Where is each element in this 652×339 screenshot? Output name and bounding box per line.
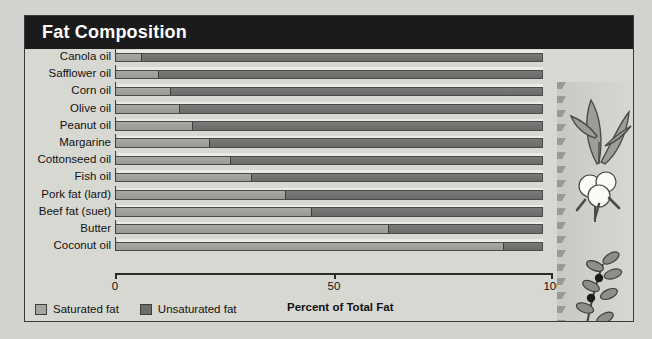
x-axis-tick-label: 100 xyxy=(543,280,562,292)
bar-segment-unsaturated xyxy=(231,157,542,165)
category-label: Pork fat (lard) xyxy=(25,187,111,202)
bar-left-cap xyxy=(115,220,120,234)
category-label: Cottonseed oil xyxy=(25,152,111,167)
bar-left-cap xyxy=(115,186,120,200)
x-axis-tick-label: 0 xyxy=(112,280,118,292)
legend-swatch-saturated xyxy=(35,304,47,315)
page-title: Fat Composition xyxy=(42,22,187,43)
bar-segment-unsaturated xyxy=(286,191,542,199)
bar-body xyxy=(115,242,543,252)
chart-row: Margarine xyxy=(25,135,634,152)
bar-segment-saturated xyxy=(116,157,231,165)
stacked-bar xyxy=(115,102,543,114)
x-axis-tick xyxy=(115,273,117,279)
category-label: Olive oil xyxy=(25,101,111,116)
category-label: Canola oil xyxy=(25,49,111,64)
bar-segment-saturated xyxy=(116,225,389,233)
chart-row: Fish oil xyxy=(25,169,634,186)
bar-segment-saturated xyxy=(116,243,504,251)
x-axis-tick-label: 50 xyxy=(328,280,341,292)
panel-title-bar: Fat Composition xyxy=(25,16,634,49)
bar-segment-saturated xyxy=(116,191,286,199)
stacked-bar xyxy=(115,50,543,62)
chart-row: Olive oil xyxy=(25,101,634,118)
stacked-bar xyxy=(115,153,543,165)
bar-segment-unsaturated xyxy=(142,54,542,62)
bar-left-cap xyxy=(115,168,120,182)
bar-segment-saturated xyxy=(116,71,159,79)
stacked-bar xyxy=(115,222,543,234)
bar-segment-unsaturated xyxy=(193,122,542,130)
screenshot-root: Fat Composition Canola oilSafflower oilC… xyxy=(0,0,652,339)
bar-segment-unsaturated xyxy=(312,208,542,216)
bar-segment-unsaturated xyxy=(389,225,542,233)
x-axis: 050100 xyxy=(115,273,555,293)
bar-left-cap xyxy=(115,100,120,114)
bar-body xyxy=(115,138,543,148)
stacked-bar xyxy=(115,239,543,251)
chart-row: Safflower oil xyxy=(25,66,634,83)
bar-left-cap xyxy=(115,151,120,165)
bar-segment-saturated xyxy=(116,105,180,113)
chart-row: Pork fat (lard) xyxy=(25,187,634,204)
stacked-bar xyxy=(115,170,543,182)
bar-segment-saturated xyxy=(116,139,210,147)
category-label: Fish oil xyxy=(25,169,111,184)
legend-swatch-unsaturated xyxy=(140,304,152,315)
category-label: Peanut oil xyxy=(25,118,111,133)
bar-body xyxy=(115,156,543,166)
bar-left-cap xyxy=(115,203,120,217)
bar-body xyxy=(115,70,543,80)
bar-body xyxy=(115,53,543,63)
category-label: Margarine xyxy=(25,135,111,150)
bar-left-cap xyxy=(115,117,120,131)
bar-segment-unsaturated xyxy=(180,105,542,113)
bar-rows: Canola oilSafflower oilCorn oilOlive oil… xyxy=(25,49,634,255)
x-axis-tick xyxy=(551,273,553,279)
bar-body xyxy=(115,190,543,200)
legend-label-saturated: Saturated fat xyxy=(53,303,119,315)
bar-segment-unsaturated xyxy=(210,139,542,147)
chart-row: Peanut oil xyxy=(25,118,634,135)
bar-segment-saturated xyxy=(116,122,193,130)
bar-body xyxy=(115,207,543,217)
bar-body xyxy=(115,87,543,97)
bar-left-cap xyxy=(115,48,120,62)
stacked-bar xyxy=(115,67,543,79)
category-label: Corn oil xyxy=(25,83,111,98)
category-label: Butter xyxy=(25,221,111,236)
bar-body xyxy=(115,224,543,234)
bar-left-cap xyxy=(115,65,120,79)
chart-legend: Saturated fat Unsaturated fat xyxy=(35,301,237,317)
olive-branch-icon xyxy=(571,249,623,322)
stacked-bar xyxy=(115,205,543,217)
chart-row: Cottonseed oil xyxy=(25,152,634,169)
bar-left-cap xyxy=(115,237,120,251)
category-label: Coconut oil xyxy=(25,238,111,253)
bar-segment-unsaturated xyxy=(504,243,542,251)
bar-segment-saturated xyxy=(116,88,171,96)
category-label: Safflower oil xyxy=(25,66,111,81)
bar-segment-unsaturated xyxy=(252,174,542,182)
chart-row: Canola oil xyxy=(25,49,634,66)
fat-composition-panel: Fat Composition Canola oilSafflower oilC… xyxy=(24,15,634,322)
bar-left-cap xyxy=(115,134,120,148)
stacked-bar xyxy=(115,119,543,131)
x-axis-title: Percent of Total Fat xyxy=(287,301,394,313)
bar-body xyxy=(115,173,543,183)
x-axis-tick xyxy=(334,273,336,279)
legend-label-unsaturated: Unsaturated fat xyxy=(158,303,237,315)
stacked-bar xyxy=(115,136,543,148)
bar-segment-unsaturated xyxy=(171,88,542,96)
stacked-bar xyxy=(115,84,543,96)
bar-segment-saturated xyxy=(116,208,312,216)
bar-left-cap xyxy=(115,82,120,96)
chart-row: Beef fat (suet) xyxy=(25,204,634,221)
stacked-bar xyxy=(115,188,543,200)
chart-row: Coconut oil xyxy=(25,238,634,255)
chart-plot-area: Canola oilSafflower oilCorn oilOlive oil… xyxy=(25,49,634,322)
bar-body xyxy=(115,104,543,114)
bar-segment-unsaturated xyxy=(159,71,542,79)
bar-body xyxy=(115,121,543,131)
category-label: Beef fat (suet) xyxy=(25,204,111,219)
